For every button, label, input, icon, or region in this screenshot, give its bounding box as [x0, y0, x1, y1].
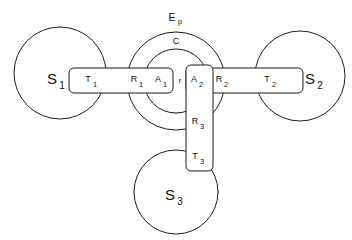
gap-label-r: r: [179, 76, 182, 85]
terminal-label-s1-subscript: 1: [59, 80, 65, 91]
segment-label-a2-text: A: [191, 74, 197, 84]
segment-label-t1-text: T: [85, 74, 91, 84]
segment-label-t3-subscript: 3: [200, 157, 204, 166]
segment-label-r2-subscript: 2: [224, 80, 228, 89]
segment-label-t2-subscript: 2: [272, 80, 276, 89]
terminal-label-s2-subscript: 2: [317, 80, 323, 91]
diagram-canvas: E p C r S 1 S 2 S 3 T 1 R 1 A 1: [0, 0, 352, 240]
segment-label-t3-text: T: [192, 151, 198, 161]
segment-label-r3-text: R: [192, 116, 199, 126]
segment-label-t1-subscript: 1: [93, 80, 97, 89]
three-terminal-device-diagram: E p C r S 1 S 2 S 3 T 1 R 1 A 1: [0, 0, 352, 240]
terminal-label-s3-text: S: [165, 186, 175, 203]
segment-label-a1-subscript: 1: [163, 80, 167, 89]
terminal-label-s3-subscript: 3: [177, 196, 183, 207]
segment-label-r3-subscript: 3: [200, 122, 204, 131]
inner-region-label: C: [173, 36, 180, 46]
terminal-label-s2-text: S: [305, 70, 315, 87]
segment-label-t2-text: T: [264, 74, 270, 84]
terminal-label-s1-text: S: [47, 70, 57, 87]
outer-region-label-text: E: [168, 11, 175, 23]
segment-label-a2-subscript: 2: [199, 80, 203, 89]
segment-label-r1-subscript: 1: [139, 80, 143, 89]
outer-region-label-subscript: p: [178, 17, 182, 26]
segment-label-r2-text: R: [216, 74, 223, 84]
outer-region-label: E p: [168, 11, 182, 26]
segment-label-r1-text: R: [131, 74, 138, 84]
segment-label-a1-text: A: [155, 74, 161, 84]
